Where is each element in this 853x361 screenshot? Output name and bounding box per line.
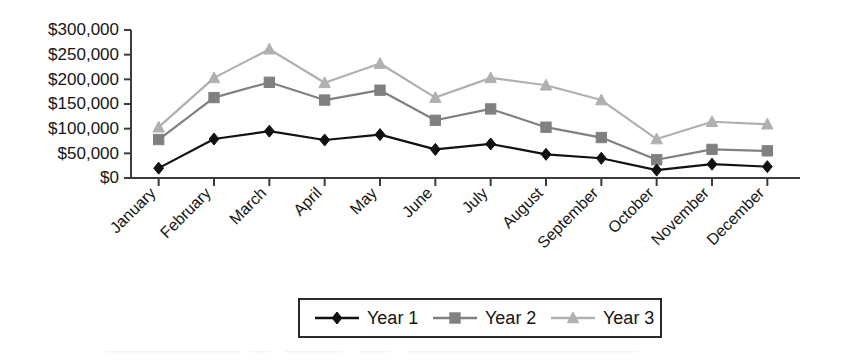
data-point-marker — [209, 133, 219, 145]
data-point-marker — [762, 161, 772, 173]
data-point-marker — [707, 144, 717, 154]
chart-legend: Year 1Year 2Year 3 — [299, 299, 661, 337]
x-axis-tick-label: October — [605, 184, 658, 237]
series-line — [159, 131, 768, 170]
data-point-marker — [486, 104, 496, 114]
x-axis-tick-label: February — [157, 184, 214, 241]
data-point-marker — [264, 43, 275, 54]
data-point-marker — [375, 85, 385, 95]
scan-artifact — [408, 351, 638, 352]
scan-artifact — [360, 351, 390, 352]
data-point-marker — [450, 313, 460, 323]
scan-artifact — [285, 351, 343, 352]
data-point-marker — [486, 138, 496, 150]
data-point-marker — [374, 58, 385, 69]
scan-artifact — [250, 351, 270, 352]
data-point-marker — [208, 72, 219, 83]
data-point-marker — [264, 125, 274, 137]
y-axis-tick-label: $150,000 — [48, 94, 119, 113]
y-axis-tick-label: $200,000 — [48, 70, 119, 89]
y-axis-tick-label: $100,000 — [48, 119, 119, 138]
data-point-marker — [154, 134, 164, 144]
data-point-marker — [596, 132, 606, 142]
data-point-marker — [485, 72, 496, 83]
x-axis-tick-label: June — [399, 184, 436, 221]
data-point-marker — [762, 146, 772, 156]
x-axis-tick-label: August — [499, 184, 547, 232]
legend-label: Year 1 — [367, 308, 418, 328]
data-point-marker — [375, 129, 385, 141]
x-axis-tick-label: January — [107, 184, 159, 236]
data-point-marker — [596, 152, 606, 164]
x-axis-tick-label: July — [459, 184, 491, 216]
legend-label: Year 3 — [603, 308, 654, 328]
data-point-marker — [264, 77, 274, 87]
line-chart: $0$50,000$100,000$150,000$200,000$250,00… — [0, 0, 853, 361]
legend-label: Year 2 — [485, 308, 536, 328]
series-line — [159, 82, 768, 159]
x-axis-tick-label: December — [703, 184, 768, 249]
series-year-3 — [153, 43, 773, 144]
y-axis-tick-label: $300,000 — [48, 20, 119, 39]
x-axis-tick-label: March — [226, 184, 269, 227]
data-point-marker — [320, 95, 330, 105]
data-point-marker — [209, 92, 219, 102]
y-axis-tick-label: $250,000 — [48, 45, 119, 64]
x-axis-tick-label: May — [347, 184, 380, 217]
y-axis-tick-label: $50,000 — [58, 144, 119, 163]
data-point-marker — [430, 115, 440, 125]
scan-artifact — [105, 351, 240, 352]
data-point-marker — [154, 162, 164, 174]
y-axis-tick-label: $0 — [100, 168, 119, 187]
data-point-marker — [541, 148, 551, 160]
data-point-marker — [430, 143, 440, 155]
series-line — [159, 49, 768, 139]
data-point-marker — [320, 134, 330, 146]
data-point-marker — [652, 164, 662, 176]
x-axis-tick-label: November — [648, 184, 713, 249]
data-point-marker — [707, 158, 717, 170]
x-axis-tick-label: April — [290, 184, 325, 219]
chart-canvas: $0$50,000$100,000$150,000$200,000$250,00… — [0, 0, 853, 361]
x-axis-tick-label: September — [534, 184, 602, 252]
series-year-2 — [154, 77, 773, 165]
data-point-marker — [541, 122, 551, 132]
